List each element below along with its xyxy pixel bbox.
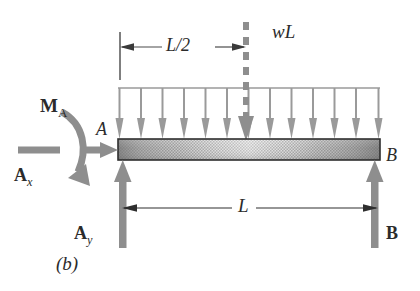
ay-stem [119, 178, 127, 248]
vertical-reaction-arrow-a [114, 160, 132, 248]
vertical-reaction-symbol: A [74, 223, 87, 243]
point-b-label: B [386, 146, 397, 164]
resultant-arrow-head [238, 116, 254, 141]
horizontal-reaction-arrow [18, 142, 118, 158]
resultant-load-dashed-line [238, 22, 254, 141]
b-stem [371, 178, 379, 248]
horizontal-reaction-subscript: x [27, 175, 32, 189]
ax-stem-left [18, 147, 60, 154]
moment-arc-stroke [62, 112, 83, 172]
half-span-arrow-left [120, 43, 134, 51]
beam-body [118, 139, 380, 160]
figure-caption: (b) [56, 254, 78, 273]
beam-shading-vertical [118, 139, 380, 160]
span-label: L [238, 196, 249, 215]
reaction-b-label: B [386, 224, 398, 242]
ax-arrow-head [100, 142, 118, 158]
diagram-canvas [0, 0, 420, 291]
moment-reaction-subscript: A [58, 105, 67, 120]
point-a-label: A [96, 120, 107, 138]
span-dimension [122, 204, 378, 212]
moment-reaction-symbol: M [40, 95, 58, 116]
moment-reaction-label: MA [40, 96, 67, 120]
free-body-diagram: wL L/2 L MA Ax Ay A B B (b) [0, 0, 420, 291]
b-arrow-head [366, 160, 384, 182]
half-span-label: L/2 [166, 36, 190, 54]
vertical-reaction-arrow-b [366, 160, 384, 248]
resultant-load-label: wL [272, 22, 295, 41]
ay-arrow-head [114, 160, 132, 182]
horizontal-reaction-symbol: A [14, 165, 27, 185]
horizontal-reaction-label: Ax [14, 166, 32, 188]
vertical-reaction-subscript: y [87, 233, 92, 247]
vertical-reaction-label: Ay [74, 224, 92, 246]
